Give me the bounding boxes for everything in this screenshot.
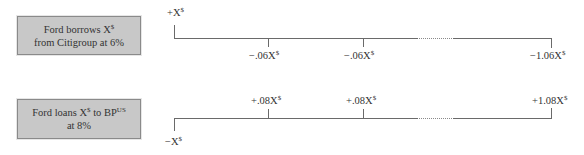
loan-timeline-line-a [174,118,418,119]
loan-timeline-line-b [453,118,552,119]
borrow-timeline-line-b [453,38,552,39]
loan-timeline-dots [419,118,452,120]
borrow-box-line1: Ford borrows X$ [44,24,115,35]
loan-tick-3 [551,108,552,119]
borrow-tick-1 [268,38,269,47]
borrow-timeline-line-a [174,38,418,39]
borrow-start-tick [174,25,175,39]
borrow-description-box: Ford borrows X$ from Citigroup at 6% [17,16,141,55]
borrow-flow-1: −.06X$ [249,50,279,61]
borrow-box-line2: from Citigroup at 6% [34,37,124,48]
borrow-start-label: +X$ [167,7,184,18]
borrow-tick-2 [363,38,364,47]
borrow-timeline-dots [419,38,452,40]
loan-tick-1 [268,109,269,119]
borrow-tick-3 [551,38,552,48]
loan-box-line1: Ford loans X$ to BPUS [32,107,126,118]
loan-description-box: Ford loans X$ to BPUS at 8% [17,99,141,139]
loan-flow-2: +.08X$ [346,95,376,106]
loan-start-tick [174,118,175,131]
loan-flow-3: +1.08X$ [532,95,567,106]
loan-tick-2 [363,109,364,119]
loan-flow-1: +.08X$ [251,95,281,106]
borrow-flow-3: −1.06X$ [530,50,565,61]
loan-box-line2: at 8% [67,120,91,131]
loan-start-label: −X$ [165,136,182,147]
borrow-flow-2: −.06X$ [344,50,374,61]
